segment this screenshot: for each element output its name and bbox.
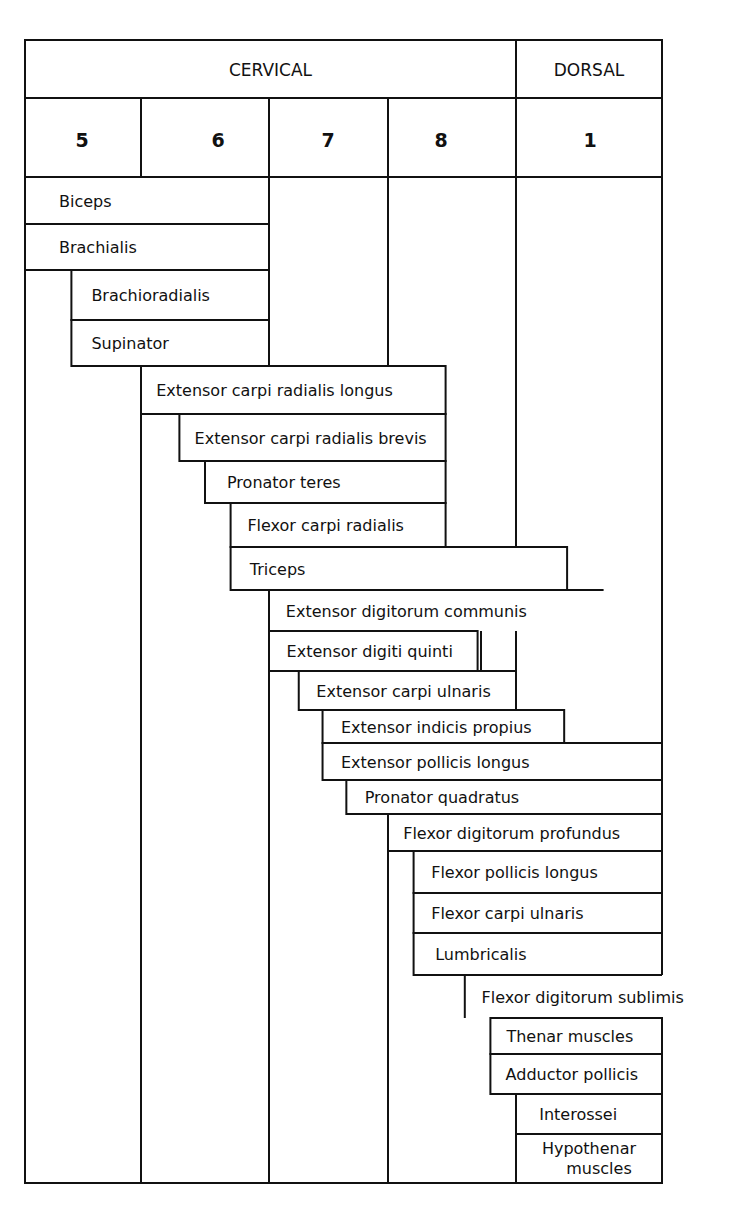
muscle-row: Adductor pollicis (490, 1054, 662, 1094)
muscle-label: Adductor pollicis (506, 1065, 638, 1084)
muscle-label: Supinator (91, 334, 169, 353)
segment-number: 8 (434, 129, 447, 151)
muscle-label: Biceps (59, 192, 112, 211)
muscle-label: Extensor pollicis longus (341, 753, 530, 772)
muscle-row: Flexor carpi ulnaris (414, 893, 662, 933)
muscle-row: Extensor carpi ulnaris (299, 671, 516, 710)
muscle-row: Supinator (71, 320, 269, 366)
muscle-label: Hypothenar (542, 1139, 637, 1158)
muscle-label: Flexor carpi radialis (247, 516, 404, 535)
muscle-label: Flexor carpi ulnaris (431, 904, 583, 923)
muscle-label: Extensor indicis propius (341, 718, 532, 737)
muscle-label: Lumbricalis (435, 945, 526, 964)
muscle-label: Triceps (249, 560, 306, 579)
segment-number: 6 (211, 129, 224, 151)
muscle-label: Brachioradialis (91, 286, 210, 305)
muscle-label: Pronator teres (227, 473, 341, 492)
muscle-label: Extensor carpi radialis brevis (195, 429, 427, 448)
muscle-label: Extensor carpi ulnaris (316, 682, 490, 701)
segment-number: 7 (321, 129, 334, 151)
muscle-boxes: BicepsBrachialisBrachioradialisSupinator… (25, 177, 735, 1183)
muscle-row: Extensor pollicis longus (323, 743, 662, 780)
muscle-label: Pronator quadratus (365, 788, 519, 807)
muscle-row: Flexor carpi radialis (231, 503, 446, 547)
muscle-row: Interossei (516, 1094, 662, 1134)
muscle-row: Triceps (231, 547, 567, 590)
muscle-label: Brachialis (59, 238, 137, 257)
muscle-row: Extensor indicis propius (323, 710, 565, 743)
segment-number: 5 (75, 129, 88, 151)
muscle-row: Extensor carpi radialis brevis (179, 414, 445, 461)
muscle-row: Flexor pollicis longus (414, 851, 662, 893)
muscle-label: Flexor digitorum profundus (403, 824, 620, 843)
muscle-row: Extensor digiti quinti (269, 631, 478, 671)
header: CERVICALDORSAL56781 (75, 60, 624, 151)
muscle-label: Extensor digitorum communis (286, 602, 527, 621)
muscle-row: Lumbricalis (414, 933, 662, 975)
muscle-row: Extensor carpi radialis longus (141, 366, 446, 414)
muscle-row: Pronator quadratus (346, 780, 662, 814)
muscle-label: Interossei (539, 1105, 617, 1124)
muscle-row: Hypothenarmuscles (516, 1134, 662, 1183)
muscle-label: Thenar muscles (505, 1027, 633, 1046)
segment-number: 1 (583, 129, 596, 151)
muscle-label: Flexor pollicis longus (431, 863, 598, 882)
muscle-label: muscles (566, 1159, 631, 1178)
region-label-cervical: CERVICAL (229, 60, 313, 80)
muscle-row: Brachioradialis (71, 270, 269, 320)
muscle-row: Flexor digitorum sublimis (465, 975, 735, 1018)
muscle-row: Pronator teres (205, 461, 446, 503)
muscle-row: Extensor digitorum communis (269, 590, 604, 631)
muscle-label: Extensor digiti quinti (287, 642, 453, 661)
muscle-label: Flexor digitorum sublimis (482, 988, 684, 1007)
innervation-diagram: BicepsBrachialisBrachioradialisSupinator… (0, 0, 741, 1211)
muscle-row: Biceps (25, 177, 269, 224)
muscle-label: Extensor carpi radialis longus (156, 381, 393, 400)
region-label-dorsal: DORSAL (554, 60, 625, 80)
muscle-row: Brachialis (25, 224, 269, 270)
muscle-row: Flexor digitorum profundus (388, 814, 662, 851)
muscle-row: Thenar muscles (490, 1018, 662, 1054)
